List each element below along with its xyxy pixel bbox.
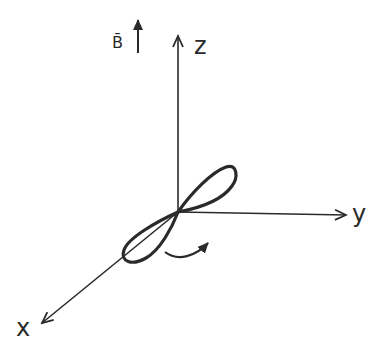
coordinate-diagram: B̄ z y x <box>0 0 387 354</box>
z-axis-label: z <box>194 32 207 60</box>
rotation-arrow <box>165 243 208 257</box>
x-axis-label: x <box>16 314 30 342</box>
y-axis-label: y <box>352 200 366 228</box>
field-label: B̄ <box>112 33 123 52</box>
y-axis <box>178 212 346 215</box>
x-axis <box>42 212 178 323</box>
orbital-lobes <box>123 166 236 262</box>
